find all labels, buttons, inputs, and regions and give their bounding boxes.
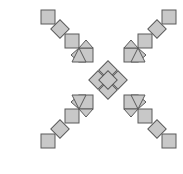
square-bottom-right	[162, 134, 176, 148]
triangle-top-right	[124, 40, 138, 48]
square-bottom-left	[65, 109, 79, 123]
square-bottom-left	[41, 134, 55, 148]
square-bottom-right	[138, 109, 152, 123]
triangle-bottom-right	[124, 109, 138, 117]
triangle-top-left	[79, 40, 93, 48]
x-pattern-diagram	[0, 0, 183, 174]
shape-group	[41, 10, 176, 148]
triangle-bottom-left	[79, 109, 93, 117]
square-top-right	[162, 10, 176, 24]
diamond-center	[99, 71, 117, 89]
square-top-right	[138, 34, 152, 48]
square-top-left	[41, 10, 55, 24]
square-top-left	[65, 34, 79, 48]
